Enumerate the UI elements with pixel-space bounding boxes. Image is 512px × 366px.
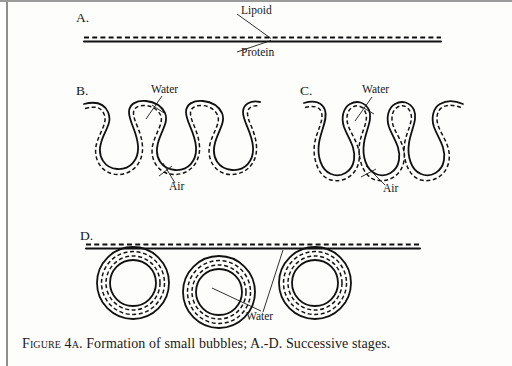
panel-b-water-leader [146, 96, 162, 119]
bubble-3 [279, 247, 351, 319]
bubble-1-outer-protein [97, 247, 169, 319]
panel-b-letter: B. [76, 83, 88, 98]
bubble-2-outer-protein [183, 256, 255, 328]
panel-c-lipoid-wall [305, 105, 462, 180]
bubble-1 [97, 247, 169, 319]
panel-d-water-leader-membrane [263, 250, 283, 312]
panel-d-label-water: Water [246, 310, 273, 322]
panel-c-protein-wall [304, 101, 463, 175]
figure-artwork: A. Lipoid Protein B. Water Air [0, 0, 512, 366]
figure-caption: Figure 4a. Formation of small bubbles; A… [22, 336, 502, 352]
figure-caption-leadin: Figure 4a. [22, 336, 83, 351]
panel-b: B. Water Air [76, 83, 260, 192]
panel-d-letter: D. [80, 228, 93, 243]
figure-caption-rest: Formation of small bubbles; A.-D. Succes… [83, 336, 391, 351]
bubble-2-outer-lipoid [188, 261, 251, 324]
panel-c-label-water: Water [362, 83, 389, 95]
bubble-1-inner-lipoid [106, 256, 160, 310]
bubble-3-inner-protein [292, 260, 338, 306]
bubble-1-outer-lipoid [102, 252, 165, 315]
figure-page: A. Lipoid Protein B. Water Air [0, 0, 512, 366]
panel-b-label-air: Air [169, 180, 185, 192]
bubble-3-outer-lipoid [284, 252, 347, 315]
panel-a: A. Lipoid Protein [76, 4, 441, 58]
panel-a-label-lipoid: Lipoid [241, 4, 272, 17]
bubble-3-inner-lipoid [288, 256, 342, 310]
panel-b-protein-wall [84, 101, 260, 170]
panel-b-lipoid-wall [85, 105, 259, 174]
panel-c-label-air: Air [383, 182, 399, 194]
bubble-2 [183, 256, 255, 328]
bubble-3-outer-protein [279, 247, 351, 319]
bubble-2-inner-protein [196, 269, 242, 315]
panel-c: C. Water Air [300, 83, 463, 194]
panel-a-lipoid-leader [237, 14, 271, 39]
panel-b-label-water: Water [151, 83, 178, 95]
panel-d: D. [80, 228, 420, 328]
panel-a-label-protein: Protein [241, 46, 274, 58]
bubble-1-inner-protein [110, 260, 156, 306]
panel-a-letter: A. [76, 10, 89, 25]
bubble-2-inner-lipoid [192, 265, 246, 319]
panel-c-letter: C. [300, 83, 312, 98]
